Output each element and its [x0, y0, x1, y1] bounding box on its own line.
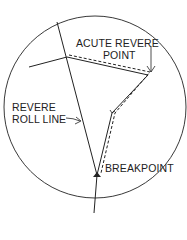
breakpoint-marker-icon [93, 172, 101, 177]
revere-roll-line-lower [94, 175, 97, 213]
label-acute-revere: ACUTE REVERE [76, 37, 159, 49]
label-acute-revere-point: POINT [103, 49, 136, 61]
fold-path-solid [67, 57, 148, 175]
label-roll-line: ROLL LINE [12, 113, 66, 125]
left-segment [29, 57, 67, 67]
label-breakpoint: BREAKPOINT [105, 162, 174, 174]
label-revere: REVERE [12, 101, 56, 113]
